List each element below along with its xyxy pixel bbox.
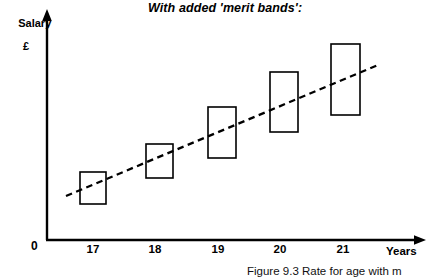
y-axis-label-currency: £ bbox=[6, 41, 46, 53]
x-axis-origin-label: 0 bbox=[31, 240, 38, 253]
x-axis-arrowhead bbox=[414, 235, 426, 245]
merit-band-boxes bbox=[80, 44, 360, 204]
merit-band-box-20 bbox=[270, 72, 298, 132]
merit-band-box-17 bbox=[80, 172, 106, 204]
figure-container: With added 'merit bands': Salary £ 0 17 … bbox=[0, 0, 431, 277]
chart-title: With added 'merit bands': bbox=[148, 2, 302, 15]
x-tick-label-19: 19 bbox=[198, 243, 238, 255]
chart-plot-area bbox=[0, 0, 431, 277]
y-axis-label: Salary £ bbox=[6, 6, 46, 75]
x-tick-label-21: 21 bbox=[323, 243, 363, 255]
y-axis-label-line1: Salary bbox=[18, 17, 51, 29]
x-axis-label: Years bbox=[386, 245, 417, 257]
x-tick-label-20: 20 bbox=[260, 243, 300, 255]
trend-line-dashed bbox=[66, 65, 378, 196]
x-tick-label-18: 18 bbox=[135, 243, 175, 255]
x-tick-label-17: 17 bbox=[73, 243, 113, 255]
merit-band-box-19 bbox=[208, 107, 236, 158]
figure-caption: Figure 9.3 Rate for age with m bbox=[247, 265, 402, 277]
